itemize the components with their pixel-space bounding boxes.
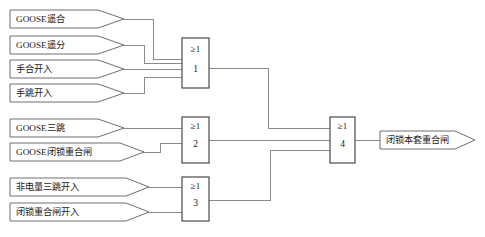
output-label: 闭锁本套重合闸: [386, 134, 449, 145]
wire-goose-yaohe-to-gate1: [124, 19, 182, 59]
gate-number: 3: [193, 198, 198, 208]
input-label: GOOSE三跳: [16, 122, 65, 133]
input-label: GOOSE闭锁重合闸: [16, 146, 92, 157]
input-shape-goose-santiao[interactable]: GOOSE三跳: [10, 119, 124, 137]
gate-symbol: ≥1: [191, 181, 200, 191]
input-shape-goose-yaofen[interactable]: GOOSE遥分: [10, 36, 124, 54]
logic-diagram-svg: GOOSE遥合 GOOSE遥分 手合开入 手跳开入 GOOSE三跳 GOOSE闭…: [0, 0, 485, 237]
input-shape-goose-bisuo-chonghe[interactable]: GOOSE闭锁重合闸: [10, 143, 144, 161]
logic-diagram-canvas: GOOSE遥合 GOOSE遥分 手合开入 手跳开入 GOOSE三跳 GOOSE闭…: [0, 0, 485, 237]
wire-group-gates-to-gate4: [209, 68, 330, 200]
input-label: 闭锁重合闸开入: [16, 206, 79, 217]
input-shape-goose-yaohe[interactable]: GOOSE遥合: [10, 10, 124, 28]
output-shape-bisuo-ben-tao-chonghe[interactable]: 闭锁本套重合闸: [380, 131, 475, 149]
gate-number: 4: [340, 139, 345, 149]
or-gate-3[interactable]: ≥1 3: [182, 177, 209, 221]
or-gate-2[interactable]: ≥1 2: [182, 117, 209, 163]
input-label: GOOSE遥分: [16, 39, 65, 50]
input-label: GOOSE遥合: [16, 13, 65, 24]
input-label: 非电量三跳开入: [16, 181, 79, 192]
input-label: 手跳开入: [16, 87, 52, 98]
wire-gate1-to-gate4: [209, 68, 330, 128]
wire-group-inputs-to-gate3: [149, 187, 182, 212]
gate-symbol: ≥1: [338, 121, 347, 131]
wire-goose-bisuo-to-gate2: [144, 143, 182, 152]
or-gate-1[interactable]: ≥1 1: [182, 38, 209, 88]
wire-gate3-to-gate4: [209, 150, 330, 200]
gate-symbol: ≥1: [191, 44, 200, 54]
wire-shoutiao-to-gate1: [124, 77, 182, 93]
input-label: 手合开入: [16, 63, 52, 74]
gate-symbol: ≥1: [191, 121, 200, 131]
wire-group-inputs-to-gate1: [124, 19, 182, 93]
gate-number: 2: [193, 139, 198, 149]
input-shape-shouhe-kairu[interactable]: 手合开入: [10, 60, 124, 78]
input-shape-shoutiao-kairu[interactable]: 手跳开入: [10, 84, 124, 102]
gate-number: 1: [193, 64, 198, 74]
input-shape-feidianliang-santiao[interactable]: 非电量三跳开入: [10, 178, 149, 196]
or-gate-4[interactable]: ≥1 4: [330, 117, 355, 163]
input-shape-bisuo-chonghe-kairu[interactable]: 闭锁重合闸开入: [10, 203, 149, 221]
